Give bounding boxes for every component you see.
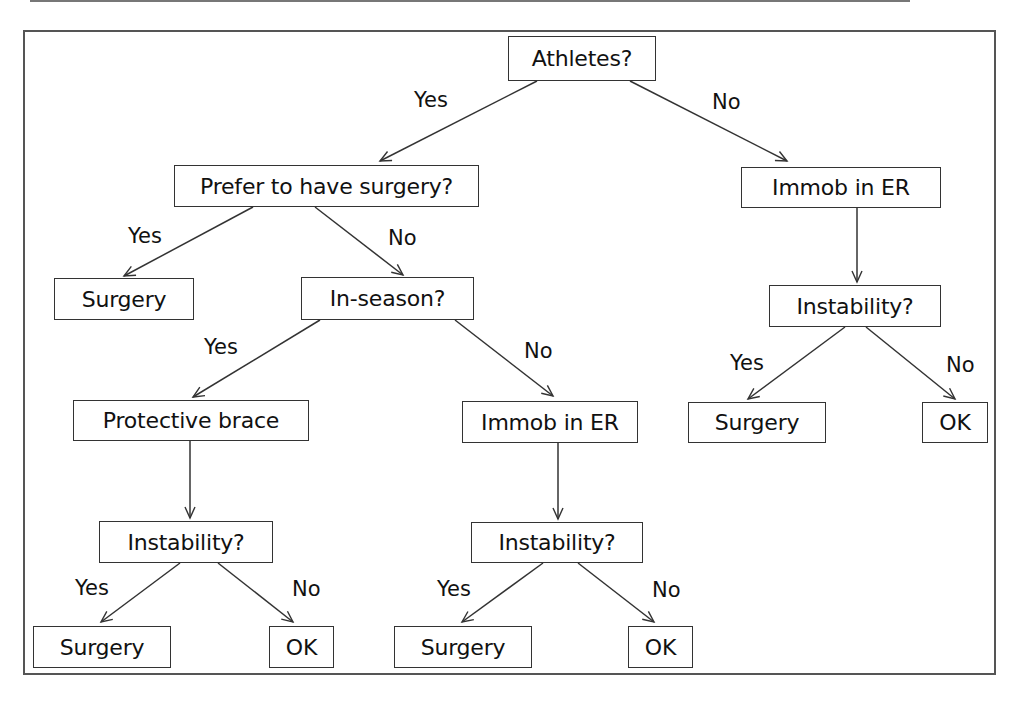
label-athletes-no: No xyxy=(712,92,741,113)
edge-instab-mid-yes xyxy=(462,563,543,622)
node-instability-nonathlete: Instability? xyxy=(769,285,941,327)
label-inseason-no: No xyxy=(524,341,553,362)
edges-layer xyxy=(0,0,1024,701)
node-in-season: In-season? xyxy=(301,277,474,320)
node-instability-offseason: Instability? xyxy=(471,522,643,563)
node-ok-nonathlete: OK xyxy=(922,402,988,443)
node-surgery-nonathlete: Surgery xyxy=(688,402,826,443)
node-athletes: Athletes? xyxy=(508,36,656,81)
label-instab-brace-no: No xyxy=(292,579,321,600)
node-ok-brace: OK xyxy=(269,626,334,668)
node-immob-er-nonathlete: Immob in ER xyxy=(741,167,941,208)
node-surgery-brace: Surgery xyxy=(33,626,171,668)
label-athletes-yes: Yes xyxy=(414,90,448,111)
node-surgery-prefer: Surgery xyxy=(54,278,194,320)
edge-athletes-yes xyxy=(380,81,537,161)
node-protective-brace: Protective brace xyxy=(73,400,309,441)
label-inseason-yes: Yes xyxy=(204,337,238,358)
node-ok-offseason: OK xyxy=(628,626,693,668)
label-instab-nonathlete-no: No xyxy=(946,355,975,376)
label-prefer-yes: Yes xyxy=(128,226,162,247)
label-instab-offseason-yes: Yes xyxy=(437,579,471,600)
edge-athletes-no xyxy=(630,81,787,161)
label-instab-nonathlete-yes: Yes xyxy=(730,353,764,374)
node-instability-brace: Instability? xyxy=(99,521,273,563)
node-surgery-offseason: Surgery xyxy=(394,626,532,668)
label-instab-offseason-no: No xyxy=(652,580,681,601)
edge-instab-right-no xyxy=(866,327,955,399)
node-prefer-surgery: Prefer to have surgery? xyxy=(174,165,479,207)
label-prefer-no: No xyxy=(388,228,417,249)
label-instab-brace-yes: Yes xyxy=(75,578,109,599)
edge-instab-left-no xyxy=(218,563,293,622)
edge-instab-left-yes xyxy=(101,563,180,622)
edge-instab-mid-no xyxy=(578,563,654,622)
node-immob-er-offseason: Immob in ER xyxy=(462,401,638,443)
